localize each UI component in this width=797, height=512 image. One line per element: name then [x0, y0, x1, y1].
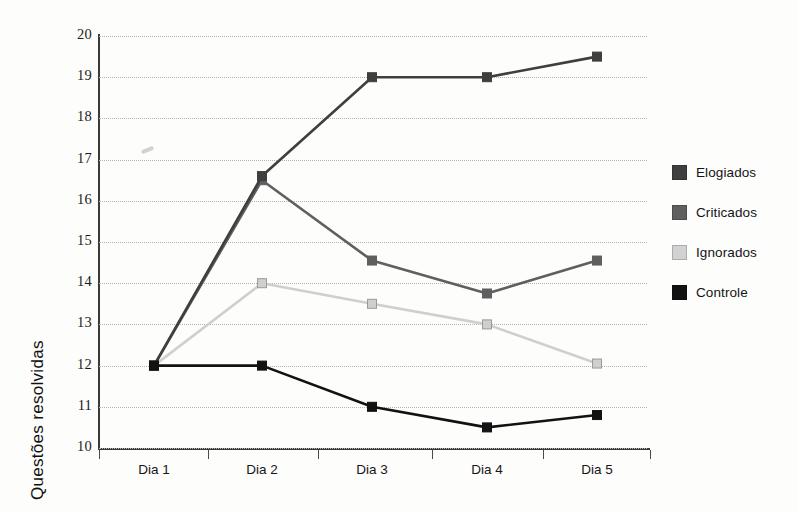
y-axis-tick-label: 15 — [58, 232, 92, 249]
legend-swatch-icon — [672, 165, 687, 180]
series-controle — [150, 361, 602, 432]
x-axis-tick-label: Dia 5 — [552, 462, 642, 477]
plot-area — [99, 36, 647, 448]
data-point-marker — [593, 256, 602, 265]
series-line — [154, 180, 597, 365]
x-axis-tick — [650, 450, 651, 459]
legend-item-ignorados: Ignorados — [672, 232, 792, 272]
chart-canvas: Questões resolvidas 20191817161514131211… — [0, 0, 797, 512]
legend-item-elogiados: Elogiados — [672, 152, 792, 192]
gridline — [99, 448, 647, 449]
legend-item-label: Criticados — [696, 205, 757, 220]
x-axis-tick — [432, 450, 433, 459]
legend-item-criticados: Criticados — [672, 192, 792, 232]
x-axis-tick-label: Dia 1 — [109, 462, 199, 477]
y-axis-tick-label: 17 — [58, 150, 92, 167]
data-point-marker — [483, 320, 492, 329]
legend-item-controle: Controle — [672, 272, 792, 312]
legend-swatch-icon — [672, 205, 687, 220]
data-point-marker — [483, 289, 492, 298]
y-axis-tick-label: 13 — [58, 314, 92, 331]
data-point-marker — [258, 172, 267, 181]
data-point-marker — [258, 279, 267, 288]
y-axis-tick-label: 20 — [58, 26, 92, 43]
y-axis-tick-label: 19 — [58, 67, 92, 84]
y-axis-title: Questões resolvidas — [28, 260, 48, 500]
x-axis-tick-label: Dia 2 — [217, 462, 307, 477]
y-axis-tick-label: 18 — [58, 108, 92, 125]
x-axis-tick-label: Dia 4 — [442, 462, 532, 477]
y-axis-tick-label: 12 — [58, 356, 92, 373]
y-axis-tick-label: 10 — [58, 438, 92, 455]
legend-item-label: Elogiados — [696, 165, 756, 180]
data-point-marker — [368, 256, 377, 265]
data-point-marker — [593, 411, 602, 420]
data-point-marker — [368, 402, 377, 411]
data-point-marker — [593, 359, 602, 368]
y-axis-tick-label: 11 — [58, 397, 92, 414]
data-point-marker — [258, 361, 267, 370]
x-axis-tick — [318, 450, 319, 459]
x-axis-tick — [543, 450, 544, 459]
data-point-marker — [368, 73, 377, 82]
series-line — [154, 283, 597, 365]
y-axis-tick-label: 14 — [58, 273, 92, 290]
legend-item-label: Ignorados — [696, 245, 757, 260]
legend-swatch-icon — [672, 245, 687, 260]
legend-swatch-icon — [672, 285, 687, 300]
x-axis-tick — [208, 450, 209, 459]
series-ignorados — [150, 279, 602, 370]
data-point-marker — [593, 52, 602, 61]
series-line — [154, 57, 597, 366]
series-layer — [99, 36, 647, 448]
chart-legend: ElogiadosCriticadosIgnoradosControle — [672, 152, 792, 312]
series-elogiados — [150, 52, 602, 370]
x-axis-tick-label: Dia 3 — [327, 462, 417, 477]
y-axis-tick-label: 16 — [58, 191, 92, 208]
data-point-marker — [483, 73, 492, 82]
legend-item-label: Controle — [696, 285, 748, 300]
data-point-marker — [368, 299, 377, 308]
x-axis-tick — [99, 450, 100, 459]
data-point-marker — [150, 361, 159, 370]
data-point-marker — [483, 423, 492, 432]
series-line — [154, 366, 597, 428]
